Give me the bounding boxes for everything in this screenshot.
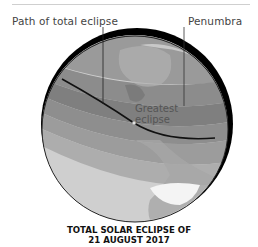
label-greatest-eclipse: Greatest eclipse xyxy=(135,103,178,125)
label-penumbra: Penumbra xyxy=(188,15,242,27)
figure-caption: TOTAL SOLAR ECLIPSE OF 21 AUGUST 2017 xyxy=(0,225,258,245)
greatest-line1: Greatest xyxy=(135,103,178,114)
label-path-of-total-eclipse: Path of total eclipse xyxy=(12,15,118,27)
caption-line1: TOTAL SOLAR ECLIPSE OF xyxy=(0,225,258,235)
greatest-line2: eclipse xyxy=(135,114,178,125)
caption-line2: 21 AUGUST 2017 xyxy=(0,235,258,245)
eclipse-globe xyxy=(0,0,258,247)
